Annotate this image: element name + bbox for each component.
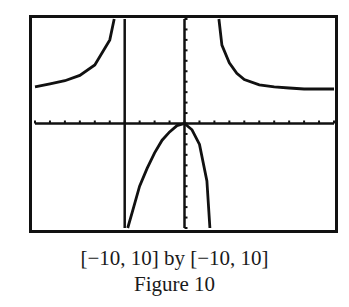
window-caption: [−10, 10] by [−10, 10] (0, 246, 349, 270)
curve-right-branch (219, 19, 334, 89)
figure-label: Figure 10 (0, 272, 349, 296)
curve-left-branch (35, 19, 114, 87)
curve-middle-branch (128, 124, 210, 229)
graph-plot (0, 0, 349, 240)
